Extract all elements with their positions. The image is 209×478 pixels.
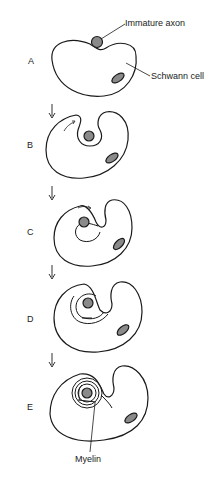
stage-label-c: C — [27, 228, 34, 237]
stage-e-cell — [50, 366, 148, 452]
stage-a-cell — [52, 24, 150, 96]
stage-d-cell — [54, 282, 142, 352]
stage-label-b: B — [27, 141, 33, 150]
label-schwann-cell: Schwann cell — [151, 72, 204, 81]
label-myelin: Myelin — [75, 455, 101, 464]
arrow-c-d — [49, 265, 55, 279]
label-immature-axon: Immature axon — [125, 19, 185, 28]
stage-label-e: E — [27, 403, 33, 412]
stage-b-cell — [46, 112, 128, 179]
stage-label-d: D — [27, 315, 34, 324]
arrow-d-e — [49, 353, 55, 367]
arrow-a-b — [49, 104, 55, 118]
stage-c-cell — [54, 200, 132, 266]
stage-label-a: A — [28, 57, 34, 66]
arrow-b-c — [49, 186, 55, 200]
